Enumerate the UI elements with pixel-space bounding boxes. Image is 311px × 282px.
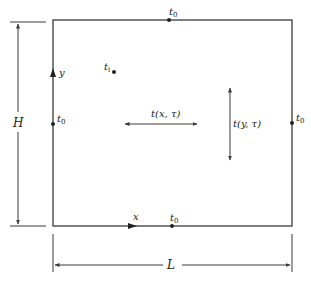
svg-text:t0: t0 [169,6,178,19]
height-dimension: H [10,22,46,226]
length-dimension: L [53,234,292,272]
svg-text:t0: t0 [296,112,305,125]
horizontal-field-label: t(x, τ) [151,108,180,119]
horizontal-field-arrow: t(x, τ) [125,108,197,124]
y-axis-indicator: y [50,67,65,78]
y-arrow-icon [50,68,56,77]
length-label: L [166,258,175,272]
y-axis-label: y [58,67,65,78]
vertical-field-label: t(y, τ) [233,118,261,129]
plate-diagram: H L t0 t0 t0 t0 ti y x t(x, τ) [0,0,311,282]
svg-text:ti: ti [104,61,111,74]
x-arrow-icon [128,223,137,229]
x-axis-label: x [133,211,139,222]
svg-text:t0: t0 [170,212,179,225]
svg-text:t0: t0 [57,113,66,126]
height-label: H [12,116,24,130]
interior-point: ti [104,61,116,74]
vertical-field-arrow: t(y, τ) [230,88,261,160]
